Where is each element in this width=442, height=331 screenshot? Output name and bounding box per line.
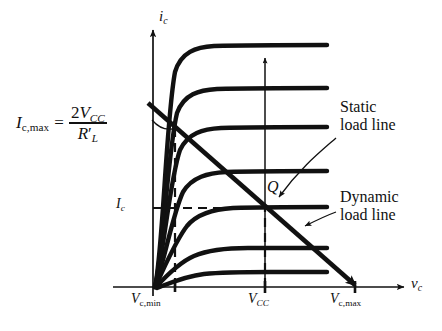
leader-to-static-load-line: [279, 138, 336, 197]
characteristic-curves: [155, 45, 327, 288]
y-axis-label-subscript: c: [163, 15, 167, 26]
equation-numerator: 2VCC: [69, 104, 107, 122]
static-load-line-annotation-line1: Static: [340, 98, 396, 116]
y-tick-label-ic: Ic: [116, 196, 125, 211]
equation-equals-sign: =: [54, 114, 64, 132]
axis-lines: [113, 30, 404, 296]
x-tick-vcc-symbol: V: [248, 291, 257, 306]
x-tick-label-vcc: VCC: [248, 291, 269, 306]
characteristic-curve-7: [157, 272, 327, 288]
static-load-line-annotation: Static load line: [340, 98, 396, 134]
equation-lhs-symbol: I: [16, 113, 22, 132]
equation-numerator-subscript: CC: [90, 112, 105, 124]
y-tick-ic-symbol: I: [116, 196, 121, 211]
dynamic-load-line-annotation: Dynamic load line: [340, 188, 399, 224]
x-tick-vc-max-symbol: V: [330, 291, 339, 306]
leader-to-dynamic-load-line: [305, 212, 336, 226]
characteristic-curve-1: [155, 45, 327, 287]
equation-numerator-symbol: V: [79, 103, 89, 122]
dynamic-load-line-annotation-line2: load line: [340, 206, 399, 224]
equation-ic-max: Ic,max = 2VCC R′L: [16, 104, 107, 142]
equation-lhs-subscript: c,max: [22, 121, 50, 133]
dynamic-load-line: [148, 103, 355, 285]
x-tick-vc-min-symbol: V: [131, 291, 140, 306]
x-axis-label-symbol: v: [411, 275, 418, 291]
equation-lhs: Ic,max: [16, 114, 49, 132]
x-tick-label-vc-max: Vc,max: [330, 291, 361, 306]
load-line-figure: Ic,max = 2VCC R′L ic vc Vc,min VCC Vc,ma…: [0, 0, 442, 331]
operating-point-label: Q: [267, 178, 279, 195]
equation-fraction: 2VCC R′L: [69, 104, 107, 142]
y-axis-label: ic: [159, 8, 168, 24]
plot-canvas: [0, 0, 442, 331]
characteristic-curve-4: [155, 171, 327, 287]
static-load-line-annotation-line2: load line: [340, 116, 396, 134]
equation-denominator-subscript: L: [92, 132, 98, 144]
x-tick-vc-min-subscript: c,min: [140, 298, 161, 308]
equation-denominator-symbol: R: [78, 124, 88, 143]
equation-denominator: R′L: [76, 124, 100, 142]
x-tick-label-vc-min: Vc,min: [131, 291, 161, 306]
x-tick-vcc-subscript: CC: [257, 298, 269, 308]
x-axis-label: vc: [411, 275, 422, 291]
y-tick-ic-subscript: c: [121, 203, 125, 213]
x-axis-label-subscript: c: [418, 282, 422, 293]
x-tick-vc-max-subscript: c,max: [339, 298, 362, 308]
dynamic-load-line-annotation-line1: Dynamic: [340, 188, 399, 206]
